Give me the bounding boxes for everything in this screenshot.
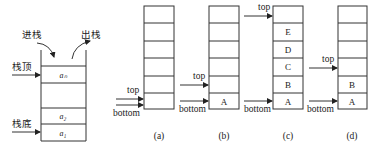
cell-a1: a₁: [60, 129, 67, 138]
cell: A: [221, 97, 228, 107]
caption: (d): [346, 131, 357, 142]
stack-c: E D C B A top bottom (c): [244, 2, 303, 142]
cell: B: [285, 80, 291, 90]
cell: D: [285, 45, 292, 55]
stack-d: B A top bottom (d): [307, 6, 367, 142]
bottom-label: bottom: [179, 104, 207, 114]
bottom-label: bottom: [307, 104, 335, 114]
cell: B: [349, 80, 355, 90]
top-label: top: [193, 71, 205, 81]
cell-an: aₙ: [60, 71, 68, 80]
caption: (a): [154, 131, 165, 142]
stack-a: top bottom (a): [113, 6, 174, 142]
top-label: top: [258, 2, 270, 12]
top-label: top: [322, 54, 334, 64]
bottom-label: bottom: [244, 104, 272, 114]
bottom-label: bottom: [113, 108, 141, 118]
cell: A: [285, 97, 292, 107]
stack-b: A top bottom (b): [179, 6, 239, 142]
cell: C: [285, 62, 291, 72]
stack-bottom-label: 栈底: [12, 118, 32, 129]
push-label: 进栈: [22, 29, 42, 40]
push-arrow-icon: [37, 43, 54, 57]
cell: A: [349, 97, 356, 107]
pop-arrow-icon: [72, 41, 90, 59]
cell: E: [285, 27, 291, 37]
cell-a2: a₂: [60, 112, 67, 121]
caption: (c): [283, 131, 294, 142]
top-label: top: [127, 85, 139, 95]
stack-top-label: 栈顶: [12, 61, 32, 72]
pop-label: 出栈: [81, 29, 101, 40]
stack-diagram: 进栈 出栈 aₙ a₂ a₁ 栈顶 栈底 top: [0, 0, 373, 150]
stack-concept-diagram: 进栈 出栈 aₙ a₂ a₁ 栈顶 栈底: [12, 29, 101, 141]
caption: (b): [218, 131, 229, 142]
